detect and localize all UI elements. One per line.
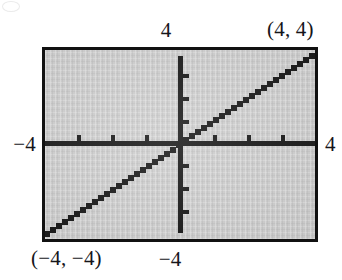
- plot-canvas: [45, 50, 315, 239]
- point-label-bottom-left: (−4, −4): [31, 248, 102, 269]
- y-axis-top-label: 4: [161, 20, 172, 41]
- x-axis-left-label: −4: [13, 134, 36, 155]
- scan-artifact: [2, 1, 20, 12]
- y-axis-bottom-label: −4: [159, 249, 182, 270]
- coordinate-graph-figure: 4 −4 −4 4 (4, 4) (−4, −4): [0, 0, 342, 280]
- x-axis-right-label: 4: [325, 134, 336, 155]
- point-label-top-right: (4, 4): [267, 19, 314, 40]
- plot-frame: [42, 47, 318, 242]
